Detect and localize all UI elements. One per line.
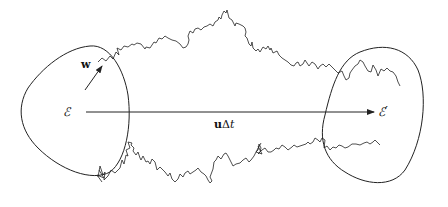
region-e-prime-boundary [322,47,423,182]
region-e-boundary [21,46,129,176]
region-e-label: ℰ [63,106,70,118]
drift-label: uΔt [214,119,234,130]
drift-t: t [230,118,234,131]
diagram-canvas [0,0,448,207]
region-e-prime-label: ℰ′ [378,106,388,118]
drift-u: u [214,118,222,131]
brownian-tangle [97,170,104,182]
w-vector-label: w [81,59,90,70]
drift-delta: Δ [222,118,230,131]
brownian-path-top [98,10,400,86]
brownian-path-bottom [98,138,380,183]
